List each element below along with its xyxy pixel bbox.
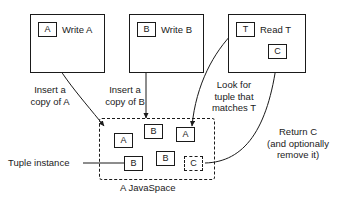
annotation-insert-b: Insert a copy of B xyxy=(95,84,155,107)
space-tuple-b-1: B xyxy=(144,124,163,139)
process-label-write-b: Write B xyxy=(161,25,192,35)
space-tuple-a-2: A xyxy=(176,127,195,142)
process-label-read-t: Read T xyxy=(260,25,291,35)
tuple-write-b: B xyxy=(137,22,156,37)
label-tuple-instance: Tuple instance xyxy=(8,157,84,169)
space-tuple-b-2: B xyxy=(124,156,143,171)
tuple-write-a: A xyxy=(38,22,57,37)
space-tuple-b-3: B xyxy=(156,151,175,166)
annotation-insert-a: Insert a copy of A xyxy=(20,84,80,107)
javaspace-diagram: A Write A B Write B T Read T C Insert a … xyxy=(0,0,340,202)
tuple-read-t-result: C xyxy=(268,44,287,59)
annotation-return-c: Return C (and optionally remove it) xyxy=(256,126,340,161)
tuple-read-t: T xyxy=(236,22,255,37)
javaspace-caption: A JavaSpace xyxy=(120,182,175,193)
space-tuple-c-1: C xyxy=(184,156,203,171)
annotation-look-for-tuple: Look for tuple that matches T xyxy=(203,79,265,114)
space-tuple-a-1: A xyxy=(114,133,133,148)
process-label-write-a: Write A xyxy=(62,25,92,35)
